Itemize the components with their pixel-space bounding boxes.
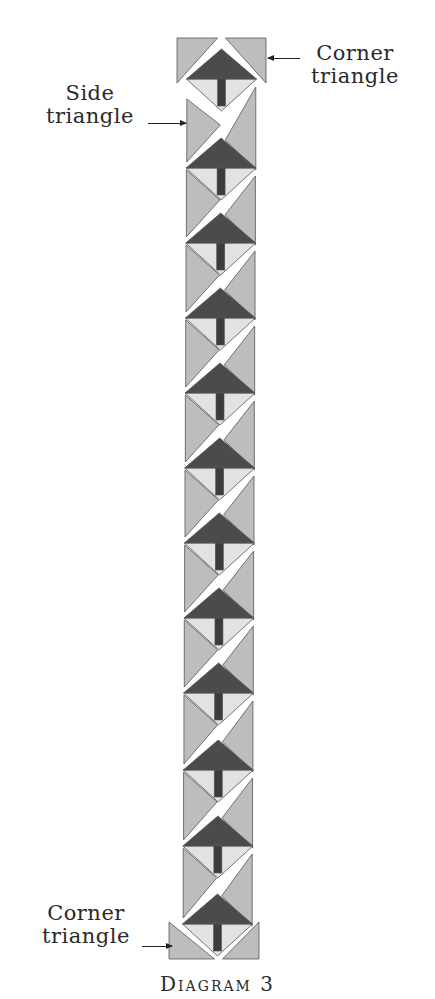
tree-trunk [215, 618, 223, 645]
tree-trunk [216, 318, 224, 345]
tree-trunk [214, 924, 222, 951]
corner-triangle-arrow-bottom [142, 946, 172, 947]
tree-trunk [217, 168, 225, 195]
tree-trunk [217, 243, 225, 270]
tree-trunk [216, 468, 224, 495]
side-triangle-label: Side triangle [40, 82, 140, 128]
corner-triangle-label-bottom: Corner triangle [36, 902, 136, 948]
tree-trunk [214, 770, 222, 797]
quilt-diagram [0, 0, 435, 999]
side-triangle-arrow [148, 123, 186, 124]
corner-triangle-label-top: Corner triangle [300, 42, 410, 88]
tree-trunk [218, 79, 226, 106]
tree-trunk [215, 693, 223, 720]
tree-trunk [216, 393, 224, 420]
corner-triangle-arrow-top [268, 58, 300, 59]
tree-trunk [215, 543, 223, 570]
tree-trunk [214, 846, 222, 873]
diagram-caption: Diagram 3 [130, 972, 305, 996]
